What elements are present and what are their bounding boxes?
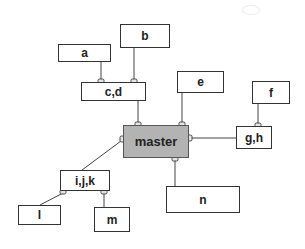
node-b-label: b: [141, 29, 148, 43]
faint-ellipse-mark: [242, 5, 260, 15]
node-f-label: f: [269, 86, 273, 100]
node-b[interactable]: b: [120, 24, 170, 48]
node-l-label: l: [38, 208, 41, 222]
node-a-label: a: [81, 46, 88, 60]
node-n-label: n: [199, 193, 206, 207]
node-master-label: master: [135, 134, 178, 149]
node-cd-label: c,d: [105, 85, 122, 99]
node-f[interactable]: f: [252, 81, 290, 104]
node-m[interactable]: m: [94, 207, 130, 232]
node-e[interactable]: e: [177, 71, 224, 93]
node-ijk[interactable]: i,j,k: [60, 170, 110, 191]
node-e-label: e: [197, 75, 204, 89]
diagram-canvas: a b c,d e f g,h master i,j,k l m n: [0, 0, 305, 249]
node-master[interactable]: master: [123, 125, 189, 158]
node-gh-label: g,h: [245, 131, 263, 145]
node-ijk-label: i,j,k: [75, 174, 95, 188]
node-a[interactable]: a: [58, 44, 111, 62]
node-gh[interactable]: g,h: [236, 126, 272, 149]
node-m-label: m: [107, 213, 118, 227]
node-n[interactable]: n: [166, 186, 240, 213]
node-l[interactable]: l: [18, 205, 61, 225]
node-cd[interactable]: c,d: [81, 82, 146, 101]
